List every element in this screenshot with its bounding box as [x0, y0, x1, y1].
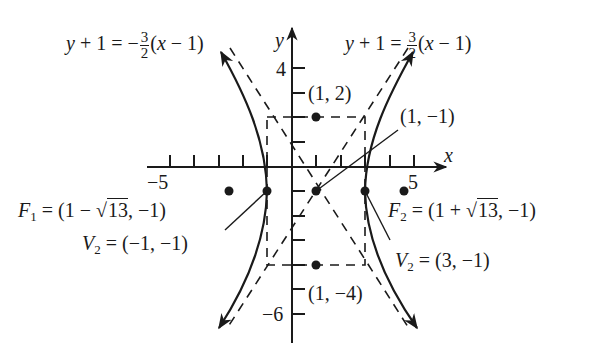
focus-right-label: F2 = (1 + √13, −1)	[388, 200, 536, 223]
point-1-neg4	[312, 261, 321, 270]
focus-left	[225, 187, 234, 196]
x-axis-label: x	[444, 145, 453, 165]
asymptote-right-label: yy + 1 = + 1 = 32(x − 1)	[345, 30, 471, 61]
x-tick-label-5: 5	[408, 172, 418, 192]
y-ticks	[292, 68, 305, 314]
point-label-center: (1, −1)	[400, 106, 455, 126]
y-axis-label: y	[275, 30, 284, 50]
point-label-1-neg4: (1, −4)	[308, 283, 363, 303]
focus-left-label: F1 = (1 − √13, −1)	[18, 200, 166, 223]
point-label-1-2: (1, 2)	[308, 83, 351, 103]
asymptote-left-label: yy + 1 = − + 1 = −32(x − 1)	[66, 30, 204, 61]
x-tick-label-neg5: −5	[147, 172, 168, 192]
y-tick-label-neg6: −6	[262, 304, 283, 324]
y-tick-label-4: 4	[276, 59, 286, 79]
vertex-right-label: V2 = (3, −1)	[395, 250, 490, 273]
point-1-2	[312, 113, 321, 122]
vertex-left-label: V2 = (−1, −1)	[82, 233, 188, 256]
